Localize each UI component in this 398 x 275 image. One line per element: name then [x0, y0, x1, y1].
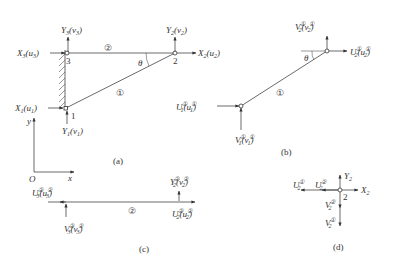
axis-origin-label: O [29, 174, 36, 184]
label-Y2d: Y2 [344, 171, 352, 182]
element-1 [241, 51, 327, 106]
wall-support [59, 50, 65, 108]
member-1 [66, 53, 175, 108]
node-1 [64, 107, 68, 111]
member-2-label: ② [104, 43, 112, 53]
label-X1: X1(u1) [14, 103, 37, 114]
member-1-label: ① [116, 88, 124, 98]
angle-theta-label-b: θ [304, 53, 309, 63]
label-Y2c: Y②2(v②2) [170, 176, 189, 188]
angle-arc-b [312, 51, 314, 60]
label-U3c: U②3(u②3) [32, 187, 53, 199]
truss-figure: X3(u3) Y3(v3) 3 ② θ 2 Y2(v2) X2(u2) ① X1… [0, 0, 398, 275]
label-V2b: V①2(v①2) [295, 21, 315, 33]
caption-c: (c) [139, 244, 149, 254]
label-Y2: Y2(v2) [166, 25, 187, 36]
node-2d-label: 2 [343, 192, 348, 202]
axis-x-label: x [67, 173, 72, 183]
panel-b: θ ① V①2(v①2) U①2(u①2) U①1(u①1) V①1(v①1) … [176, 21, 371, 157]
node-2-label: 2 [173, 56, 178, 66]
node-2d [338, 188, 342, 192]
label-V3c: V②3(v②3) [64, 223, 84, 235]
label-U2-1: U①2 [293, 179, 305, 191]
caption-a: (a) [113, 156, 123, 166]
label-X2d: X2 [360, 185, 370, 196]
angle-arc [146, 53, 149, 66]
label-X3: X3(u3) [16, 48, 39, 59]
label-X2: X2(u2) [197, 48, 220, 59]
label-Y3: Y3(v3) [61, 25, 82, 36]
node-2b [325, 49, 329, 53]
panel-d: U①2 U②2 Y2 X2 2 V②2 V①2 (d) [293, 171, 370, 252]
label-U2-2: U②2 [315, 179, 327, 191]
caption-d: (d) [333, 242, 344, 252]
label-U2c: U②2(u②2) [172, 208, 193, 220]
label-U1b: U①1(u①1) [176, 101, 197, 113]
label-V2-2: V②2 [325, 199, 336, 211]
caption-b: (b) [281, 147, 292, 157]
node-1b [239, 104, 243, 108]
member-1-label-b: ① [276, 88, 284, 98]
axis-y-label: y [26, 116, 31, 126]
label-Y1: Y1(v1) [62, 126, 83, 137]
label-V2-1: V①2 [325, 217, 336, 229]
member-2-label-c: ② [128, 206, 136, 216]
node-3-label: 3 [66, 56, 71, 66]
node-1-label: 1 [71, 111, 76, 121]
label-U2b: U①2(u①2) [350, 46, 371, 58]
label-V1b: V①1(v①1) [235, 134, 255, 146]
angle-theta-label: θ [138, 58, 143, 68]
panel-c: ② U②3(u②3) V②3(v②3) Y②2(v②2) U②2(u②2) (c… [32, 176, 195, 254]
